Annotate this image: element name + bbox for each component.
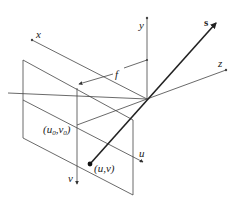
z-axis-label: z: [217, 57, 223, 69]
image-point-dot: [88, 162, 93, 167]
y-axis-label: y: [138, 19, 144, 31]
focal-length-end: [146, 59, 148, 61]
x-axis-label: x: [35, 28, 41, 40]
u-axis: [23, 100, 143, 162]
u-axis-label: u: [139, 147, 145, 159]
plane-horizontal-line: [8, 93, 147, 99]
focal-length-leader: [124, 60, 147, 68]
x-axis-end: [31, 39, 33, 41]
image-point-label: (u,v): [94, 162, 115, 175]
principal-point-label: (u0,v0): [43, 123, 71, 137]
ray-s-label: s: [204, 16, 209, 28]
v-axis-label: v: [68, 172, 73, 184]
x-axis: [32, 40, 147, 99]
z-axis: [147, 70, 226, 99]
focal-length-label: f: [115, 68, 120, 80]
ray-s: [90, 23, 216, 164]
z-axis-end: [225, 69, 227, 71]
y-axis-end: [146, 17, 148, 19]
image-plane: [23, 60, 133, 195]
camera-diagram: x y z s f u v (u0,v0) (u,v): [0, 0, 234, 201]
